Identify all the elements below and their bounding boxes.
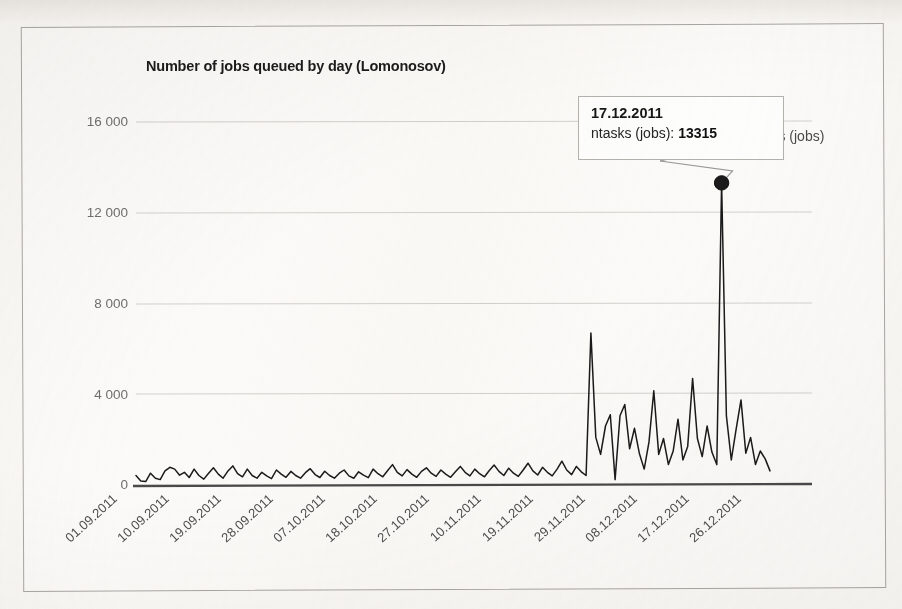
x-axis-tick-label: 08.12.2011	[582, 491, 640, 545]
x-axis-tick-label: 01.09.2011	[62, 491, 120, 545]
series-line-ntasks	[136, 183, 770, 482]
x-axis-tick-label: 19.09.2011	[166, 491, 224, 545]
x-axis-tick-label: 26.12.2011	[686, 491, 744, 545]
x-axis-tick-label: 29.11.2011	[531, 491, 588, 544]
chart-canvas: 01.09.201110.09.201119.09.201128.09.2011…	[0, 0, 902, 609]
data-point-tooltip[interactable]: 17.12.2011 ntasks (jobs): 13315	[578, 96, 784, 160]
tooltip-value-row: ntasks (jobs): 13315	[591, 124, 773, 144]
x-axis-tick-label: 19.11.2011	[479, 491, 536, 544]
x-axis-tick-label: 17.12.2011	[634, 491, 692, 545]
x-axis-labels: 01.09.201110.09.201119.09.201128.09.2011…	[62, 491, 744, 545]
tooltip-value: 13315	[678, 125, 717, 141]
grid-lines	[136, 121, 812, 394]
tooltip-date: 17.12.2011	[591, 104, 773, 124]
x-axis-tick-label: 28.09.2011	[218, 491, 276, 545]
x-axis-tick-label: 18.10.2011	[322, 491, 380, 545]
tooltip-series-label: ntasks (jobs):	[591, 125, 674, 141]
x-axis-tick-label: 10.09.2011	[114, 491, 172, 545]
x-axis-tick-label: 10.11.2011	[427, 491, 484, 544]
point-marker-peak[interactable]	[714, 176, 728, 190]
x-axis-tick-label: 27.10.2011	[374, 491, 432, 545]
chart-plot-area: Number of jobs queued by day (Lomonosov)…	[0, 0, 902, 609]
x-axis-tick-label: 07.10.2011	[270, 491, 328, 545]
x-axis-baseline	[133, 484, 812, 486]
